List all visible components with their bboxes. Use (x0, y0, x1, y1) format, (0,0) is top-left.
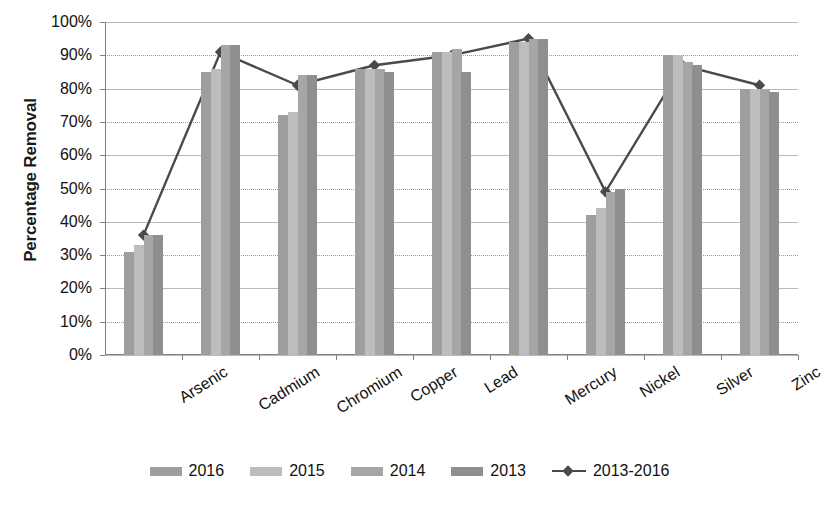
y-axis-tick-label: 40% (22, 213, 92, 231)
y-axis-tick-label: 70% (22, 113, 92, 131)
bar (384, 72, 394, 355)
bar-group (336, 22, 413, 355)
bar-group (721, 22, 798, 355)
x-axis-label: Arsenic (176, 363, 231, 407)
x-axis-label: Silver (713, 363, 756, 399)
plot-area (105, 22, 798, 355)
legend-label: 2016 (189, 462, 225, 480)
legend-swatch-icon (150, 467, 182, 476)
bar-group (490, 22, 567, 355)
legend-label: 2015 (289, 462, 325, 480)
y-axis-tick-label: 60% (22, 146, 92, 164)
bar-group (182, 22, 259, 355)
legend-item[interactable]: 2013-2016 (552, 462, 670, 480)
y-axis-tick-label: 80% (22, 80, 92, 98)
bar (538, 39, 548, 355)
bar (307, 75, 317, 355)
legend-item[interactable]: 2016 (150, 462, 225, 480)
y-axis-tick-labels: 100%90%80%70%60%50%40%30%20%10%0% (0, 22, 100, 355)
legend-item[interactable]: 2014 (351, 462, 426, 480)
bar (615, 189, 625, 356)
x-axis-label: Nickel (636, 363, 682, 401)
bar (230, 45, 240, 355)
bar (692, 65, 702, 355)
x-axis-label: Cadmium (255, 363, 323, 415)
x-axis-tickmark (798, 355, 799, 360)
y-axis-tick-label: 10% (22, 313, 92, 331)
bar (663, 55, 673, 355)
bar-group (644, 22, 721, 355)
y-axis-tick-label: 50% (22, 180, 92, 198)
x-axis-label: Copper (406, 363, 460, 406)
bar (509, 42, 519, 355)
bar (278, 115, 288, 355)
bar-group (567, 22, 644, 355)
bar (461, 72, 471, 355)
y-axis-tickmark (100, 355, 105, 356)
x-axis-labels: ArsenicCadmiumChromiumCopperLeadMercuryN… (105, 357, 798, 452)
bar (201, 72, 211, 355)
bar (432, 52, 442, 355)
y-axis-tick-label: 30% (22, 246, 92, 264)
y-axis-tick-label: 0% (22, 346, 92, 364)
legend-label: 2013-2016 (593, 462, 670, 480)
legend-label: 2013 (490, 462, 526, 480)
legend-label: 2014 (390, 462, 426, 480)
legend-line-marker-icon (552, 466, 586, 476)
x-axis-label: Lead (481, 363, 521, 397)
bar (740, 89, 750, 355)
x-axis-label: Chromium (333, 363, 405, 417)
y-axis-tick-label: 90% (22, 46, 92, 64)
legend-swatch-icon (250, 467, 282, 476)
legend-item[interactable]: 2013 (451, 462, 526, 480)
legend-swatch-icon (351, 467, 383, 476)
x-axis-label: Mercury (561, 363, 620, 409)
legend-item[interactable]: 2015 (250, 462, 325, 480)
y-axis-tick-label: 20% (22, 279, 92, 297)
legend-swatch-icon (451, 467, 483, 476)
x-axis-label: Zinc (788, 363, 823, 394)
y-axis-tick-label: 100% (22, 13, 92, 31)
bar (355, 69, 365, 355)
bar (124, 252, 134, 355)
bar (586, 215, 596, 355)
chart-legend: 20162015201420132013-2016 (0, 462, 819, 480)
bar-group (413, 22, 490, 355)
y-axis-line (105, 22, 106, 355)
bar-group (105, 22, 182, 355)
bar (769, 92, 779, 355)
bar-group (259, 22, 336, 355)
bar (153, 235, 163, 355)
gridline (105, 355, 798, 356)
